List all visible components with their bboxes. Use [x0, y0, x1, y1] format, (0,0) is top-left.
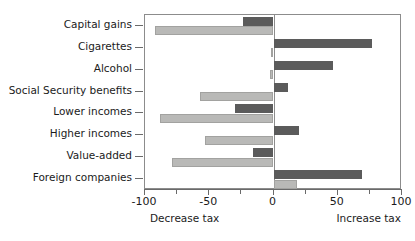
bar-dark [274, 83, 288, 92]
category-label: Capital gains [0, 19, 132, 30]
bar-light [270, 70, 274, 79]
x-axis-tick-label: 50 [315, 196, 359, 208]
decrease-tax-note: Decrease tax [150, 212, 219, 224]
bar-dark [274, 39, 373, 48]
category-axis: Capital gainsCigarettesAlcoholSocial Sec… [0, 18, 132, 185]
category-label: Lower incomes [0, 106, 132, 117]
x-axis-tick-label: -50 [186, 196, 230, 208]
x-axis-tick [369, 189, 370, 194]
bar-dark [274, 170, 363, 179]
x-axis-tick-label: 0 [251, 196, 295, 208]
bar-dark [274, 61, 333, 70]
bar-light [160, 114, 273, 123]
category-tick [135, 47, 143, 48]
x-axis-tick-label: -100 [122, 196, 166, 208]
x-axis-tick [176, 189, 177, 194]
category-label: Higher incomes [0, 128, 132, 139]
category-label: Social Security benefits [0, 85, 132, 96]
category-tick [135, 112, 143, 113]
bar-dark [274, 126, 300, 135]
category-tick [135, 178, 143, 179]
category-tick [135, 91, 143, 92]
bar-light [155, 26, 273, 35]
bar-dark [243, 17, 274, 26]
bar-chart: Capital gainsCigarettesAlcoholSocial Sec… [0, 0, 415, 241]
bar-light [271, 48, 274, 57]
category-label: Value-added [0, 150, 132, 161]
bar-light [200, 92, 273, 101]
bar-dark [235, 104, 274, 113]
bar-dark [253, 148, 274, 157]
category-tick [135, 25, 143, 26]
category-tick [135, 134, 143, 135]
category-tick [135, 156, 143, 157]
x-axis-tick-label: 100 [379, 196, 415, 208]
category-label: Cigarettes [0, 41, 132, 52]
bar-light [172, 158, 274, 167]
category-tick [135, 69, 143, 70]
bar-light [205, 136, 273, 145]
increase-tax-note: Increase tax [336, 212, 401, 224]
category-label: Alcohol [0, 63, 132, 74]
bar-light [274, 180, 297, 189]
x-axis-tick [305, 189, 306, 194]
plot-area [144, 14, 401, 189]
x-axis-tick [240, 189, 241, 194]
category-label: Foreign companies [0, 172, 132, 183]
